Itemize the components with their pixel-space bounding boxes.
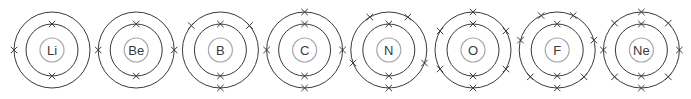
atom-b: B [182,12,258,91]
electron-cross-icon [350,60,356,66]
electron-cross-icon [611,20,617,26]
element-symbol: Be [128,43,144,58]
electron-cross-icon [665,74,671,80]
electron-cross-icon [611,74,617,80]
element-symbol: Ne [633,43,650,58]
atom-li: Li [11,12,90,88]
electron-cross-icon [527,74,533,80]
electron-shell-diagram: LiBeBCNOFNe [0,0,691,99]
electron-cross-icon [517,37,523,43]
atom-c: C [263,9,345,91]
atom-o: O [435,9,511,91]
element-symbol: B [216,43,225,58]
element-symbol: O [468,43,478,58]
electron-cross-icon [437,66,443,72]
electron-cross-icon [665,20,671,26]
electron-cross-icon [570,12,576,18]
electron-cross-icon [591,37,597,43]
electron-cross-icon [421,60,427,66]
atom-be: Be [95,12,177,88]
electron-cross-icon [503,66,509,72]
electron-cross-icon [503,28,509,34]
electron-cross-icon [405,14,411,20]
element-symbol: F [553,43,561,58]
electron-cross-icon [538,12,544,18]
element-symbol: C [300,43,309,58]
atom-n: N [350,12,428,91]
atom-ne: Ne [600,9,682,91]
electron-cross-icon [188,22,194,28]
electron-cross-icon [437,28,443,34]
electron-cross-icon [246,22,252,28]
electron-cross-icon [581,74,587,80]
atom-f: F [517,12,597,91]
element-symbol: Li [47,43,57,58]
electron-cross-icon [367,14,373,20]
element-symbol: N [384,43,393,58]
